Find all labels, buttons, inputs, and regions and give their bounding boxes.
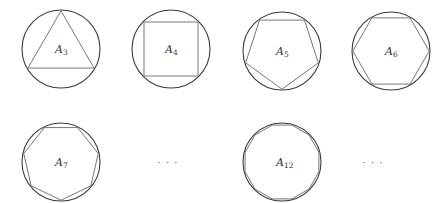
polygon-figure-a4: A4	[132, 10, 210, 88]
polygon-label: A5	[275, 45, 289, 59]
polygon-label: A4	[164, 43, 178, 57]
polygon-figure-a3: A3	[22, 10, 100, 88]
inscribed-polygon	[28, 11, 94, 68]
polygon-label: A6	[384, 45, 398, 59]
polygon-figure-a5: A5	[243, 12, 321, 90]
polygon-label: A3	[54, 43, 68, 57]
polygon-figure-a6: A6	[352, 12, 430, 90]
ellipsis: · · ·	[158, 157, 179, 168]
polygon-label: A12	[275, 156, 294, 170]
polygon-figure-a7: A7	[22, 123, 100, 201]
polygon-label: A7	[54, 156, 68, 170]
polygon-figure-a12: A12	[243, 123, 321, 201]
inscribed-polygons-diagram: A3A4A5A6A7A12· · ·· · ·	[0, 0, 448, 203]
ellipsis: · · ·	[363, 157, 384, 168]
